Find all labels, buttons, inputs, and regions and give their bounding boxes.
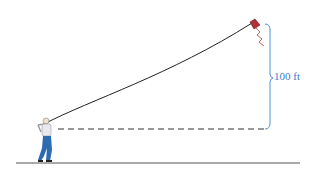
kite-string — [44, 23, 252, 124]
kite-icon — [250, 19, 264, 46]
kite-tail — [256, 28, 264, 46]
height-brace — [265, 24, 273, 129]
height-label: 100 ft — [274, 70, 300, 82]
kite-diagram — [0, 0, 319, 180]
person-icon — [38, 118, 52, 162]
